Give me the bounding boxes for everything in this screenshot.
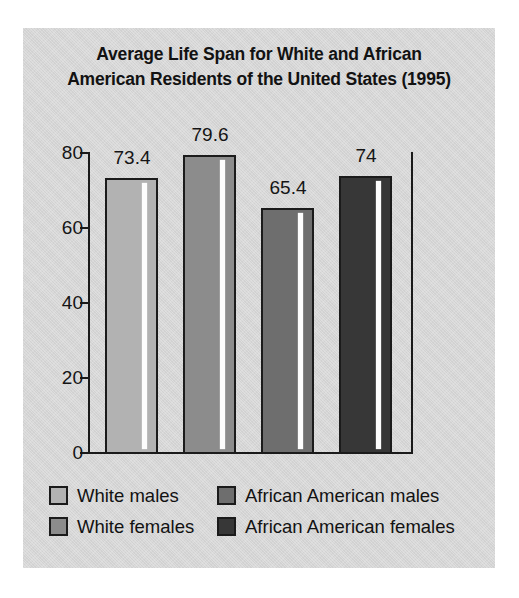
bar-highlight-stripe [142, 183, 147, 449]
y-tick-label-80: 80 [23, 143, 83, 162]
legend-swatch-white-males [49, 486, 68, 505]
legend-row-1: White males African American males [49, 480, 479, 511]
chart-legend: White males African American males White… [49, 480, 479, 542]
bar-white-males[interactable] [105, 178, 158, 454]
legend-item-white-males[interactable]: White males [49, 486, 217, 505]
bar-african-american-females[interactable] [339, 176, 392, 454]
legend-swatch-african-american-females [217, 517, 236, 536]
legend-swatch-african-american-males [217, 486, 236, 505]
plot-right-border [411, 152, 413, 454]
bar-value-white-females: 79.6 [165, 125, 255, 144]
legend-label-african-american-males: African American males [245, 486, 439, 505]
legend-item-african-american-males[interactable]: African American males [217, 486, 439, 505]
legend-item-white-females[interactable]: White females [49, 517, 217, 536]
legend-row-2: White females African American females [49, 511, 479, 542]
legend-label-african-american-females: African American females [245, 517, 455, 536]
bar-white-females[interactable] [183, 155, 236, 454]
legend-swatch-white-females [49, 517, 68, 536]
bar-african-american-males[interactable] [261, 208, 314, 454]
y-tick-label-0: 0 [23, 443, 83, 462]
bar-highlight-stripe [220, 160, 225, 449]
y-tick-label-20: 20 [23, 368, 83, 387]
bar-highlight-stripe [376, 181, 381, 449]
bar-highlight-stripe [298, 213, 303, 449]
chart-figure: Average Life Span for White and African … [23, 28, 495, 568]
legend-item-african-american-females[interactable]: African American females [217, 517, 455, 536]
bar-value-white-males: 73.4 [87, 148, 177, 167]
y-tick-label-40: 40 [23, 293, 83, 312]
bar-value-african-american-males: 65.4 [243, 178, 333, 197]
legend-label-white-females: White females [77, 517, 194, 536]
legend-label-white-males: White males [77, 486, 179, 505]
bar-value-african-american-females: 74 [321, 146, 411, 165]
y-tick-label-60: 60 [23, 218, 83, 237]
